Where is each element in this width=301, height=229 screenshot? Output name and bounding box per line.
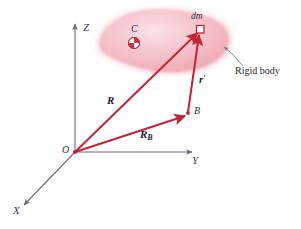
diagram-canvas (0, 0, 301, 229)
rigid-body-figure: Z Y X O B dm C R RB r′ Rigid body (0, 0, 301, 229)
vector-RB (75, 116, 185, 152)
z-axis-label: Z (83, 22, 89, 33)
vector-R-label: R (107, 95, 114, 106)
vector-R-symbol: R (107, 94, 114, 106)
y-axis-label: Y (192, 155, 198, 166)
rigid-body-blob (96, 8, 231, 74)
vector-RB-label: RB (140, 129, 153, 142)
origin-label: O (62, 145, 69, 155)
center-of-mass-label: C (131, 24, 138, 34)
point-b-marker (186, 111, 190, 115)
origin-marker (73, 150, 77, 154)
rigid-body-annotation-label: Rigid body (235, 66, 280, 76)
vector-RB-subscript: B (147, 133, 152, 142)
center-of-mass-icon (128, 37, 139, 48)
mass-element-label: dm (191, 12, 203, 22)
mass-element-marker (197, 26, 205, 34)
vector-r-prime-mark: ′ (203, 73, 206, 83)
point-b-label: B (194, 106, 200, 116)
vector-r-prime-label: r′ (199, 74, 206, 85)
x-axis (24, 152, 75, 205)
x-axis-label: X (13, 205, 20, 216)
